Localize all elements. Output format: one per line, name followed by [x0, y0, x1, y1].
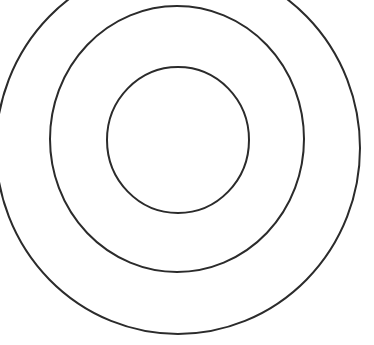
- concentric-circles-diagram: [0, 0, 374, 345]
- diagram-container: [0, 0, 374, 345]
- background: [0, 0, 374, 345]
